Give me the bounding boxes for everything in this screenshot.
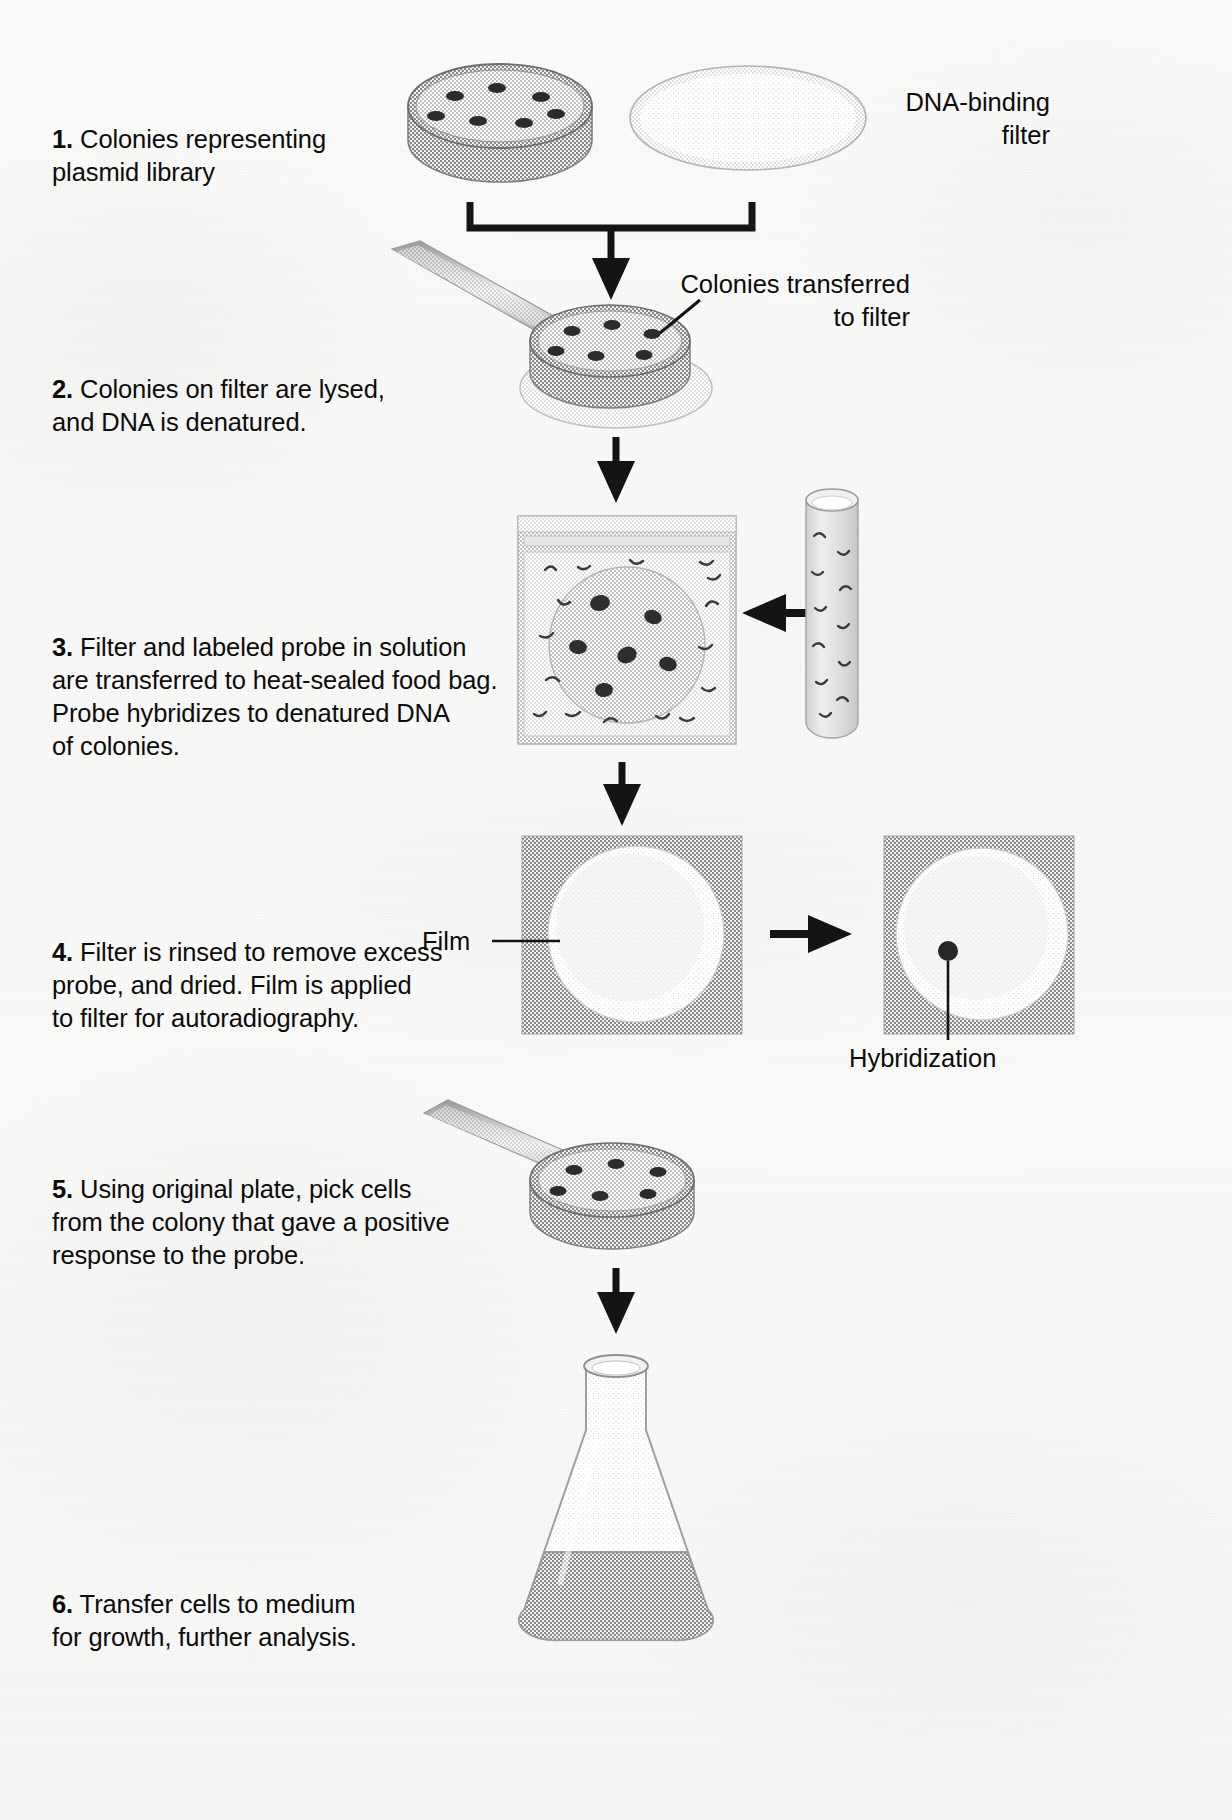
step-4-text: 4. Filter is rinsed to remove excess pro… <box>52 903 492 1035</box>
merge-bracket <box>470 202 752 265</box>
step-6-number: 6. <box>52 1590 73 1618</box>
step-6-text: 6. Transfer cells to medium for growth, … <box>52 1555 472 1654</box>
step-5-number: 5. <box>52 1175 73 1203</box>
probe-solution-tube <box>806 489 858 738</box>
arrow-5-to-6 <box>597 1268 635 1334</box>
step-3-body: Filter and labeled probe in solution are… <box>52 633 497 760</box>
erlenmeyer-flask-medium <box>519 1355 713 1640</box>
step-6-body: Transfer cells to medium for growth, fur… <box>52 1590 357 1651</box>
step-1-body: Colonies representing plasmid library <box>52 125 326 186</box>
autoradiograph-with-spot <box>884 836 1074 1040</box>
step-2-body: Colonies on filter are lysed, and DNA is… <box>52 375 385 436</box>
step-5-body: Using original plate, pick cells from th… <box>52 1175 450 1269</box>
step-1-text: 1. Colonies representing plasmid library <box>52 90 382 189</box>
arrow-2-to-3 <box>597 437 635 503</box>
hybridization-spot <box>938 941 958 961</box>
film-label: Film <box>422 925 502 958</box>
step-3-text: 3. Filter and labeled probe in solution … <box>52 598 502 763</box>
step-4-body: Filter is rinsed to remove excess probe,… <box>52 938 442 1032</box>
step-4-number: 4. <box>52 938 73 966</box>
step-5-text: 5. Using original plate, pick cells from… <box>52 1140 522 1272</box>
step-2-number: 2. <box>52 375 73 403</box>
original-plate-pick <box>530 1143 694 1249</box>
step-1-number: 1. <box>52 125 73 153</box>
petri-dish-colonies <box>408 64 592 182</box>
arrow-head-down-1 <box>592 258 630 300</box>
step-3-number: 3. <box>52 633 73 661</box>
heat-sealed-food-bag <box>518 516 736 744</box>
step-2-text: 2. Colonies on filter are lysed, and DNA… <box>52 340 482 439</box>
arrow-3-to-4 <box>603 762 641 826</box>
film-over-filter <box>522 836 742 1034</box>
colonies-transferred-label: Colonies transferred to filter <box>640 268 910 334</box>
dna-binding-filter-label: DNA-binding filter <box>790 86 1050 152</box>
arrow-film-to-autorad <box>770 915 852 953</box>
hybridization-label: Hybridization <box>849 1042 1109 1075</box>
